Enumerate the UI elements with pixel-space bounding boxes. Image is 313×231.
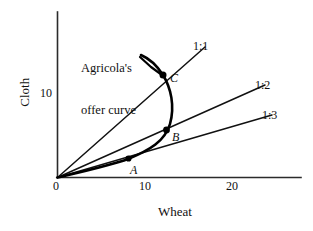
offer-curve-figure: 0 10 20 10 Wheat Cloth 1:1 1:2 1:3 A B C… [0,0,313,231]
offer-curve-callout: Agricola's offer curve [81,33,136,145]
data-point-a [125,155,131,161]
point-label-c: C [170,72,178,85]
data-point-c [160,72,167,79]
point-label-a: A [130,164,137,177]
data-point-b [163,127,170,134]
x-tick-10: 10 [139,180,151,193]
point-label-b: B [172,131,179,144]
y-axis-title: Cloth [18,65,33,119]
offer-curve-callout-line1: Agricola's [81,61,136,75]
x-tick-0: 0 [53,180,59,193]
ratio-label-1-3: 1:3 [262,109,277,122]
x-tick-20: 20 [226,180,238,193]
ratio-label-1-1: 1:1 [193,40,208,53]
offer-curve-callout-line2: offer curve [81,103,136,117]
x-axis-title: Wheat [158,205,192,220]
ratio-label-1-2: 1:2 [255,79,270,92]
y-tick-10: 10 [40,87,52,100]
